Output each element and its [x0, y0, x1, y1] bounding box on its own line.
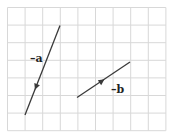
- vector-line-neg-a: [25, 26, 60, 116]
- vectors-layer: [0, 0, 169, 138]
- vector-label-neg-a: –a: [30, 53, 43, 64]
- vector-label-neg-b: –b: [111, 84, 124, 95]
- vector-diagram: –a –b: [0, 0, 169, 138]
